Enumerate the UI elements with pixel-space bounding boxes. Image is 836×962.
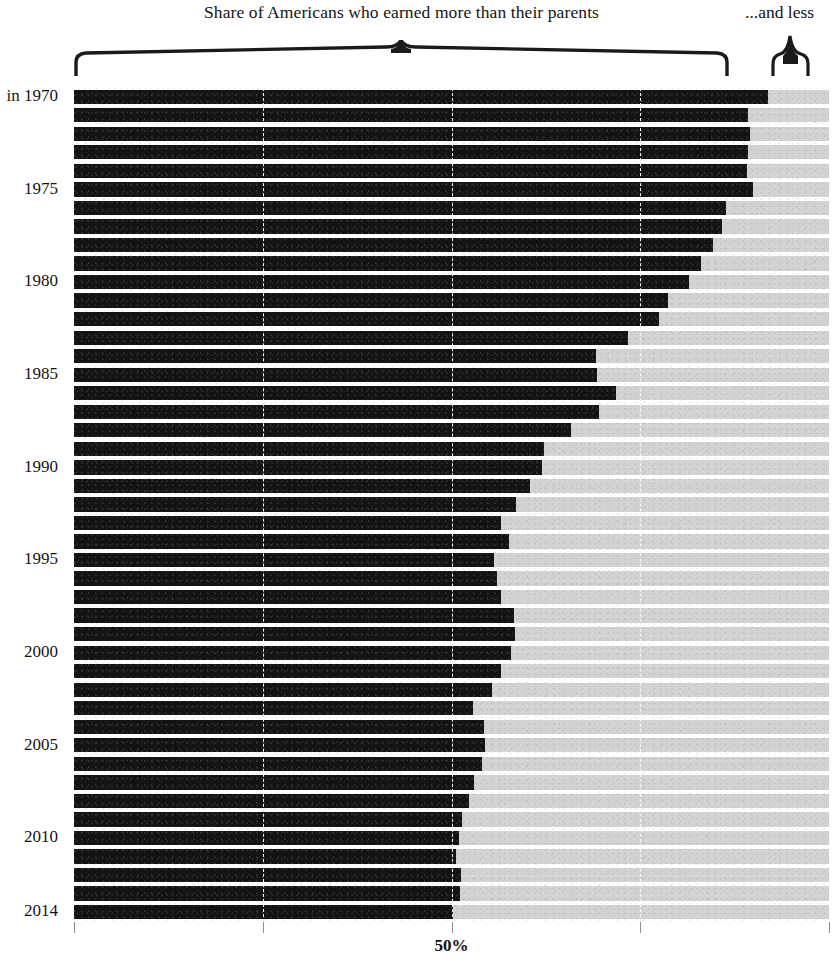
- y-axis-tick-label: 2010: [24, 828, 58, 847]
- bar-row: [74, 755, 829, 774]
- bar-segment-earned-more: [74, 145, 748, 159]
- bar-row: [74, 422, 829, 441]
- bar-row: [74, 218, 829, 237]
- x-axis-tick: [74, 922, 75, 933]
- bar-row: [74, 662, 829, 681]
- bar-chart-plot-area: [74, 88, 829, 922]
- bar-row: [74, 829, 829, 848]
- bar-segment-earned-more: [74, 701, 473, 715]
- bar-segment-earned-more: [74, 886, 460, 900]
- legend-label-earned-less: ...and less: [745, 2, 836, 23]
- bar-segment-earned-more: [74, 738, 485, 752]
- bar-row: [74, 366, 829, 385]
- bar-segment-earned-more: [74, 331, 628, 345]
- y-axis-tick-label: 1985: [24, 365, 58, 384]
- bar-segment-earned-more: [74, 312, 659, 326]
- bar-segment-earned-more: [74, 90, 768, 104]
- y-axis-tick-label: 1990: [24, 458, 58, 477]
- bar-row: [74, 107, 829, 126]
- bar-segment-earned-more: [74, 831, 459, 845]
- y-axis-labels: in 1970197519801985199019952000200520102…: [0, 88, 66, 922]
- bar-row: [74, 848, 829, 867]
- x-axis-tick: [829, 922, 830, 933]
- curly-brace-narrow-icon: [770, 34, 812, 76]
- bar-segment-earned-more: [74, 275, 689, 289]
- bar-row: [74, 329, 829, 348]
- bar-segment-earned-more: [74, 905, 453, 919]
- bar-segment-earned-more: [74, 127, 750, 141]
- bar-row: [74, 292, 829, 311]
- bar-segment-earned-more: [74, 794, 469, 808]
- bar-row: [74, 718, 829, 737]
- bar-segment-earned-more: [74, 627, 515, 641]
- x-axis-tick: [452, 922, 453, 933]
- bar-row: [74, 607, 829, 626]
- bar-row: [74, 737, 829, 756]
- bar-row: [74, 255, 829, 274]
- bar-row: [74, 347, 829, 366]
- bar-row: [74, 403, 829, 422]
- bar-row: [74, 385, 829, 404]
- x-axis: 50%: [74, 922, 829, 962]
- y-axis-tick-label: 1980: [24, 272, 58, 291]
- bar-row: [74, 273, 829, 292]
- bar-row: [74, 811, 829, 830]
- y-axis-tick-label: in 1970: [7, 87, 58, 106]
- bar-row: [74, 144, 829, 163]
- bar-segment-earned-more: [74, 497, 516, 511]
- bar-row: [74, 459, 829, 478]
- bar-row: [74, 88, 829, 107]
- bar-segment-earned-more: [74, 812, 462, 826]
- bar-segment-earned-more: [74, 664, 501, 678]
- bar-row: [74, 514, 829, 533]
- bar-row: [74, 199, 829, 218]
- x-axis-tick-label-50: 50%: [435, 936, 469, 956]
- legend-label-earned-more: Share of Americans who earned more than …: [74, 2, 729, 23]
- bar-row: [74, 792, 829, 811]
- bar-row: [74, 681, 829, 700]
- bar-row: [74, 570, 829, 589]
- x-axis-tick: [640, 922, 641, 933]
- y-axis-tick-label: 2005: [24, 736, 58, 755]
- bar-segment-earned-more: [74, 256, 701, 270]
- bar-segment-earned-more: [74, 646, 511, 660]
- bar-row: [74, 588, 829, 607]
- bar-segment-earned-more: [74, 182, 753, 196]
- bar-row: [74, 533, 829, 552]
- bar-segment-earned-more: [74, 757, 482, 771]
- bar-row: [74, 903, 829, 922]
- bar-segment-earned-more: [74, 608, 514, 622]
- bar-row: [74, 236, 829, 255]
- bar-row: [74, 477, 829, 496]
- bar-row: [74, 496, 829, 515]
- bar-segment-earned-more: [74, 349, 596, 363]
- bar-segment-earned-more: [74, 849, 456, 863]
- bar-segment-earned-more: [74, 460, 542, 474]
- bar-segment-earned-more: [74, 553, 494, 567]
- bar-segment-earned-more: [74, 368, 597, 382]
- bar-row: [74, 440, 829, 459]
- bar-segment-earned-more: [74, 590, 501, 604]
- bar-row: [74, 644, 829, 663]
- bar-row: [74, 866, 829, 885]
- curly-brace-wide-icon: [74, 40, 729, 76]
- bar-segment-earned-more: [74, 219, 722, 233]
- bar-segment-earned-more: [74, 720, 484, 734]
- bar-segment-earned-more: [74, 571, 497, 585]
- bar-segment-earned-more: [74, 868, 461, 882]
- bar-segment-earned-more: [74, 293, 668, 307]
- bar-row: [74, 625, 829, 644]
- bar-row: [74, 551, 829, 570]
- y-axis-tick-label: 2000: [24, 643, 58, 662]
- bar-segment-earned-more: [74, 683, 492, 697]
- bar-row: [74, 125, 829, 144]
- bar-row: [74, 885, 829, 904]
- bar-segment-earned-more: [74, 164, 747, 178]
- bar-row: [74, 162, 829, 181]
- bar-segment-earned-more: [74, 516, 501, 530]
- bar-segment-earned-more: [74, 423, 571, 437]
- bar-row: [74, 181, 829, 200]
- y-axis-tick-label: 2014: [24, 902, 58, 921]
- bar-row: [74, 700, 829, 719]
- y-axis-tick-label: 1995: [24, 550, 58, 569]
